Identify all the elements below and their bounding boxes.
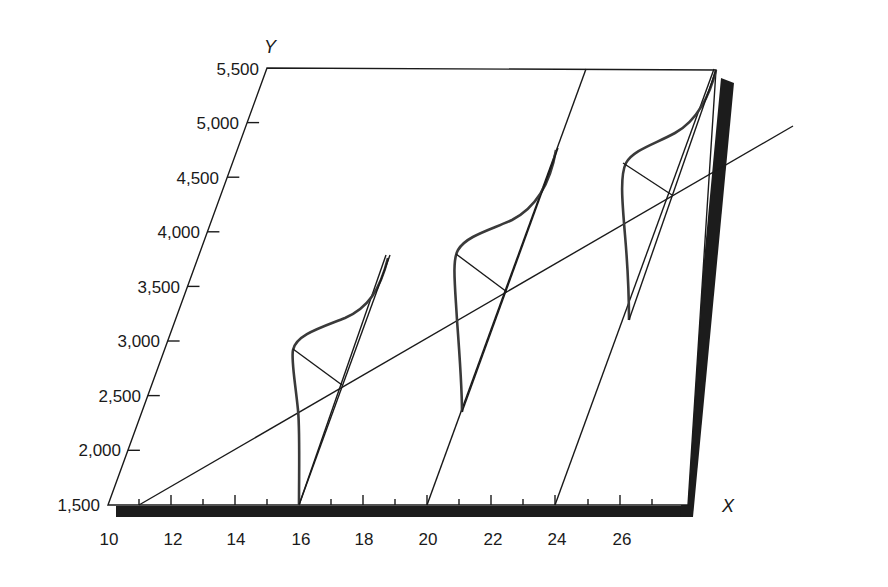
x-tick-label-14: 14: [227, 530, 246, 549]
y-tick-label-5500: 5,500: [216, 60, 259, 79]
x-tick-label-12: 12: [164, 530, 183, 549]
x-axis-labels: 10 12 14 16 18 20 22 24 26: [100, 530, 632, 549]
x-axis-title: X: [721, 496, 735, 516]
y-tick-label-3000: 3,000: [117, 332, 160, 351]
x-tick-label-10: 10: [100, 530, 119, 549]
x-tick-label-16: 16: [292, 530, 311, 549]
x-tick-label-18: 18: [355, 530, 374, 549]
y-tick-label-2500: 2,500: [98, 387, 141, 406]
y-tick-label-4500: 4,500: [176, 169, 219, 188]
x-tick-label-20: 20: [419, 530, 438, 549]
x-tick-label-22: 22: [484, 530, 503, 549]
y-axis-title: Y: [264, 37, 278, 57]
y-tick-label-2000: 2,000: [78, 441, 121, 460]
x-tick-label-24: 24: [548, 530, 567, 549]
y-tick-label-4000: 4,000: [157, 223, 200, 242]
y-tick-label-5000: 5,000: [196, 114, 239, 133]
x-tick-label-26: 26: [613, 530, 632, 549]
y-tick-label-3500: 3,500: [137, 278, 180, 297]
bottom-shadow: [116, 506, 690, 517]
regression-normal-distributions-figure: 1,500 2,000 2,500 3,000 3,500 4,000 4,50…: [0, 0, 888, 587]
y-tick-label-1500: 1,500: [57, 496, 100, 515]
